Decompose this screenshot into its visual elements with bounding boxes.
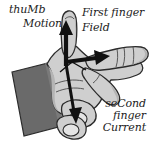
label-thumb-part: thuMb bbox=[9, 4, 45, 16]
label-first-finger-quantity: Field bbox=[82, 22, 110, 34]
label-second-finger-quantity: Current bbox=[103, 122, 146, 134]
fingernail-lower bbox=[63, 124, 79, 136]
label-first-finger-part: First finger bbox=[82, 7, 144, 19]
label-thumb-quantity: Motion bbox=[23, 18, 62, 30]
flemings-left-hand-rule-diagram: thuMb Motion First finger Field seCond f… bbox=[0, 0, 151, 144]
